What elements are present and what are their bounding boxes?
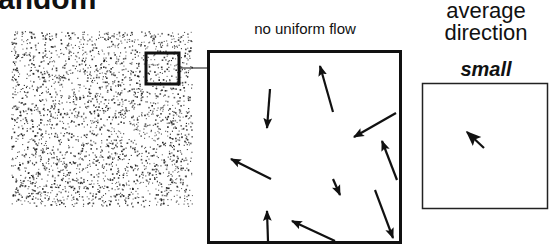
arrow-icon (267, 89, 270, 128)
arrow-icon (292, 221, 335, 241)
average-magnitude-label: small (422, 58, 550, 80)
arrow-icon (333, 179, 340, 195)
average-panel-caption: average direction (422, 0, 550, 44)
motion-vectors (231, 66, 397, 241)
average-direction-vector (467, 132, 484, 148)
average-panel-frame (423, 84, 548, 209)
caption-line-2: direction (422, 22, 550, 44)
arrow-icon (320, 66, 333, 112)
arrow-icon (354, 113, 396, 137)
zoomed-panel-caption: no uniform flow (207, 20, 403, 38)
arrow-icon (231, 159, 271, 179)
arrow-icon (375, 190, 393, 238)
arrow-icon (382, 141, 397, 180)
zoomed-panel-frame (209, 52, 401, 243)
arrow-icon (467, 132, 484, 148)
random-dot-field (11, 31, 193, 207)
caption-line-1: average (422, 0, 550, 22)
arrow-icon (267, 211, 268, 241)
